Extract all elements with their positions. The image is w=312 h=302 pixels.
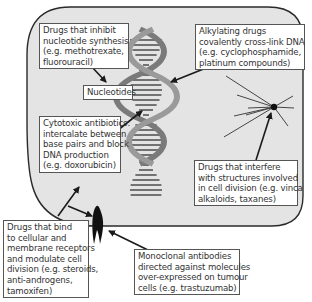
label-monoclonal-antibodies: Monoclonal antibodies directed against m…: [134, 249, 240, 295]
label-cytotoxic-antibiotics: Cytotoxic antibiotics: intercalate betwe…: [39, 116, 121, 173]
label-nucleotide-synthesis-drugs: Drugs that inhibit nucleotide synthesis …: [39, 23, 129, 69]
arrow-monoclonal-to-receptor: [109, 231, 150, 251]
label-alkylating-drugs: Alkylating drugs covalently cross-link D…: [195, 24, 305, 70]
label-nucleotides: Nucleotides: [83, 85, 133, 100]
label-receptor-binding-drugs: Drugs that bind to cellular and membrane…: [3, 220, 89, 298]
label-cell-division-drugs: Drugs that interfere with structures inv…: [194, 160, 298, 206]
